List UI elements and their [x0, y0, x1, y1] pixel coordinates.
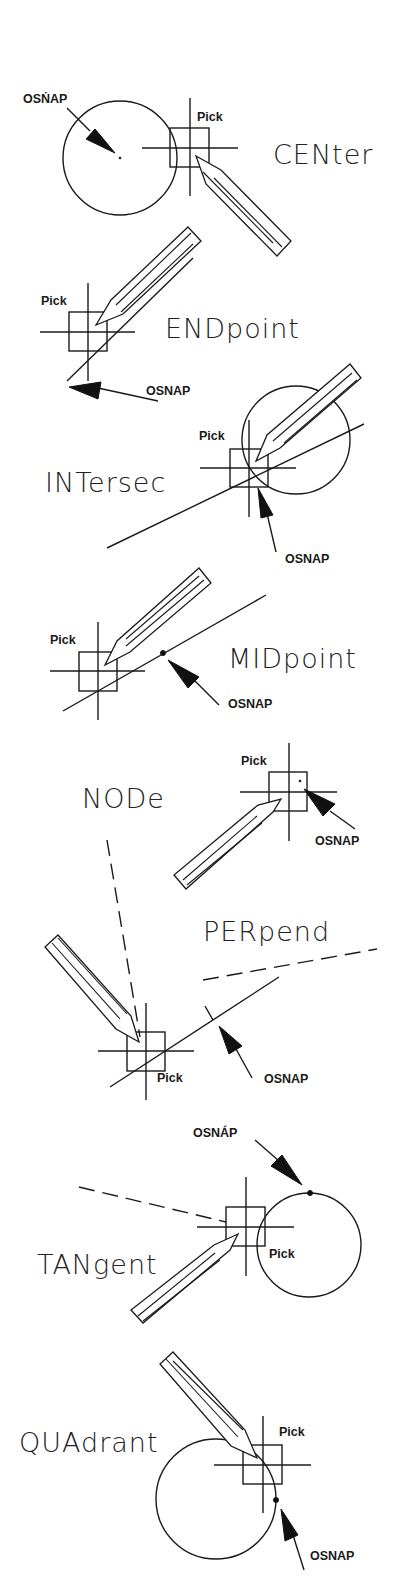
section-endpoint: Pick OSNAP ENDpoint	[40, 227, 300, 401]
mode-label: PERpend	[203, 916, 330, 947]
circle	[156, 1439, 276, 1559]
osnap-arrow-icon	[219, 1026, 242, 1054]
osnap-arrow-icon	[258, 488, 273, 518]
osnap-arrow-icon	[168, 660, 199, 688]
perpendicular-tick	[205, 1006, 213, 1020]
section-quadrant: Pick OSNAP QUAdrant	[19, 1352, 354, 1570]
pick-label: Pick	[269, 1247, 295, 1261]
osnap-arrow-shaft	[236, 1049, 252, 1078]
mode-label: TANgent	[37, 1249, 158, 1280]
section-tangent: Pick OSNÁP TANgent	[37, 1125, 361, 1323]
pencil-cursor-icon	[160, 1352, 257, 1458]
diagram-svg: OSṄAP Pick CENter Pick	[0, 0, 395, 1581]
mode-label: MIDpoint	[228, 643, 357, 674]
osnap-arrow-shaft	[193, 679, 219, 705]
osnap-arrow-shaft	[293, 1535, 304, 1570]
osnap-arrow-shaft	[330, 811, 355, 829]
section-center: OSṄAP Pick CENter	[23, 91, 373, 256]
dashed-guide-line	[79, 1187, 226, 1222]
pencil-cursor-icon	[196, 156, 291, 256]
pick-label: Pick	[199, 429, 225, 443]
osnap-arrow-shaft	[255, 1140, 279, 1161]
pencil-cursor-icon	[45, 935, 139, 1042]
osnap-label: OSNAP	[264, 1072, 308, 1086]
mode-label: INTersec	[45, 467, 166, 498]
osnap-arrow-icon	[69, 382, 101, 399]
mode-label: NODe	[82, 783, 165, 814]
mode-label: ENDpoint	[165, 313, 300, 344]
pencil-cursor-icon	[105, 568, 211, 665]
midpoint-dot	[161, 651, 166, 656]
quadrant-point-dot	[274, 1498, 279, 1503]
osnap-arrow-icon	[281, 1509, 298, 1541]
osnap-label: OSNÁP	[193, 1125, 237, 1140]
pick-label: Pick	[241, 754, 267, 768]
section-perpendicular: Pick OSNAP PERpend	[45, 840, 377, 1100]
dashed-reference-line	[203, 949, 377, 980]
osnap-diagram: OSṄAP Pick CENter Pick	[0, 0, 395, 1581]
osnap-label: OSNAP	[310, 1549, 354, 1563]
section-midpoint: Pick OSNAP MIDpoint	[50, 568, 357, 720]
pencil-cursor-icon	[174, 799, 281, 889]
center-point	[119, 157, 121, 159]
pick-label: Pick	[50, 633, 76, 647]
node-point	[299, 780, 301, 782]
osnap-arrow-icon	[271, 1155, 302, 1185]
section-node: Pick OSNAP NODe	[82, 743, 359, 889]
osnap-label: OSNAP	[315, 834, 359, 848]
pick-label: Pick	[197, 110, 223, 124]
pick-label: Pick	[279, 1425, 305, 1439]
osnap-label: OSNAP	[146, 384, 190, 398]
osnap-arrow-icon	[86, 129, 115, 153]
osnap-label: OSNAP	[228, 697, 272, 711]
osnap-label: OSNAP	[285, 552, 329, 566]
mode-label: QUAdrant	[19, 1427, 159, 1458]
pick-label: Pick	[157, 1071, 183, 1085]
circle	[257, 1193, 361, 1297]
pencil-cursor-icon	[96, 227, 201, 325]
pencil-cursor-icon	[256, 364, 361, 461]
mode-label: CENter	[273, 139, 373, 170]
pick-label: Pick	[41, 294, 67, 308]
osnap-label: OSṄAP	[23, 91, 67, 106]
tangent-point-dot	[308, 1191, 313, 1196]
